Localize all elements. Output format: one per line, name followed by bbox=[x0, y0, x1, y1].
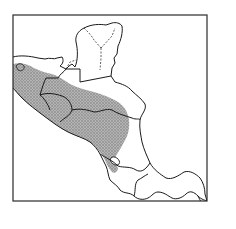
map-canvas bbox=[0, 0, 236, 229]
range-map bbox=[0, 0, 236, 229]
